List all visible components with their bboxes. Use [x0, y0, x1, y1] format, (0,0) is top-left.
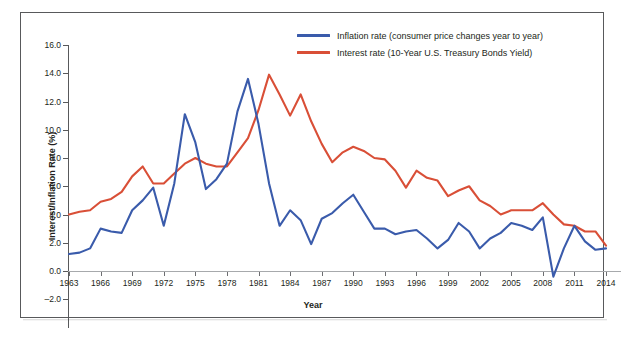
y-tick-mark [63, 130, 68, 131]
y-tick-label: 2.0 [21, 238, 61, 248]
figure-drop-shadow [23, 319, 607, 321]
y-tick-mark [63, 45, 68, 46]
y-tick-mark [63, 73, 68, 74]
chart-figure: Interest/Inflation Rate (%) 16.014.012.0… [20, 12, 604, 318]
y-tick-mark [63, 102, 68, 103]
y-tick-label: 0.0 [21, 266, 61, 276]
chart-legend: Inflation rate (consumer price changes y… [297, 27, 543, 61]
y-tick-label: 10.0 [21, 125, 61, 135]
y-tick-mark [63, 215, 68, 216]
y-tick-mark [63, 186, 68, 187]
y-tick-label: 4.0 [21, 210, 61, 220]
y-tick-mark [63, 271, 68, 272]
y-tick-mark [63, 243, 68, 244]
truncated-caption-strip: · · · · · [0, 0, 624, 11]
truncated-caption-text: · · · · · [26, 0, 55, 2]
legend-item-interest: Interest rate (10-Year U.S. Treasury Bon… [297, 44, 543, 61]
series-canvas [69, 45, 621, 335]
legend-swatch-inflation-icon [297, 34, 330, 37]
plot-area [69, 45, 621, 272]
y-tick-mark [63, 158, 68, 159]
legend-swatch-interest-icon [297, 51, 330, 54]
y-tick-label: 14.0 [21, 68, 61, 78]
y-tick-label: 16.0 [21, 40, 61, 50]
legend-label-inflation: Inflation rate (consumer price changes y… [337, 31, 543, 41]
x-axis-title: Year [21, 300, 605, 310]
y-tick-label: 12.0 [21, 97, 61, 107]
line-interest-rate [69, 75, 606, 246]
legend-item-inflation: Inflation rate (consumer price changes y… [297, 27, 543, 44]
y-tick-label: 8.0 [21, 153, 61, 163]
legend-label-interest: Interest rate (10-Year U.S. Treasury Bon… [337, 48, 532, 58]
y-tick-label: 6.0 [21, 181, 61, 191]
